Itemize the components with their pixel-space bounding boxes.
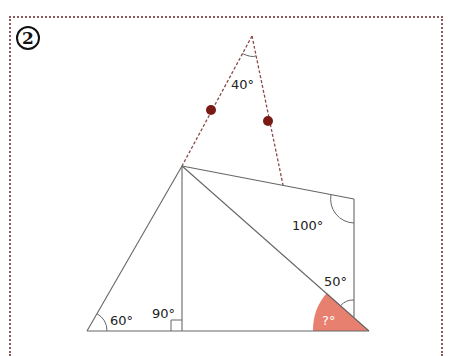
equal-mark-dot-right — [263, 116, 273, 126]
right-angle-label: 90° — [152, 306, 175, 321]
bottom-left-angle-label: 60° — [110, 313, 133, 328]
apex-angle-label: 40° — [231, 77, 254, 92]
right-angle-mark — [171, 320, 182, 331]
apex-angle-arc — [243, 54, 257, 57]
unknown-angle-label: ?° — [322, 313, 335, 328]
quad-corner-angle-label: 100° — [292, 218, 323, 233]
dashed-side-right — [252, 36, 283, 185]
quad-top — [182, 166, 354, 199]
dashed-side-left — [182, 36, 252, 166]
bottom-left-angle-arc — [97, 314, 107, 331]
right-lower-angle-label: 50° — [324, 274, 347, 289]
equal-mark-dot-left — [206, 105, 216, 115]
diagonal — [182, 166, 369, 331]
right-lower-angle-arc — [341, 300, 355, 306]
